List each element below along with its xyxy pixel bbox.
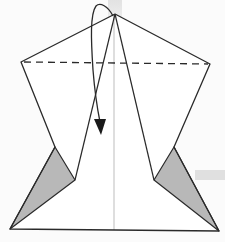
origami-diagram [0,0,225,242]
fold-diagram-svg [0,0,225,242]
